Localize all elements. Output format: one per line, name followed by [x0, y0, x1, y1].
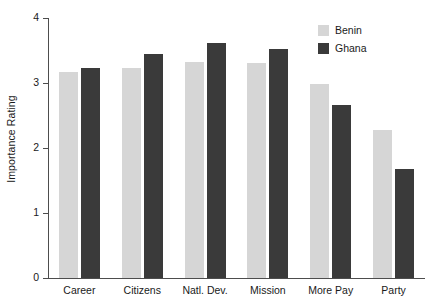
bar-benin-3 [247, 63, 266, 278]
bar-benin-5 [373, 130, 392, 278]
x-axis-label: Mission [237, 284, 300, 297]
plot-area: 01234 CareerCitizensNatl. Dev.MissionMor… [48, 18, 425, 278]
bar-benin-2 [185, 62, 204, 278]
x-axis-label: Natl. Dev. [174, 284, 237, 297]
y-axis-tick: 3 [43, 83, 48, 84]
legend-label: Benin [335, 24, 362, 37]
bar-ghana-4 [332, 105, 351, 278]
y-axis-title: Importance Rating [0, 0, 22, 278]
y-axis-line [48, 18, 49, 278]
x-axis-line [48, 278, 425, 279]
y-axis-tick-label: 2 [33, 141, 39, 154]
x-axis-label: Party [362, 284, 425, 297]
y-axis-tick: 0 [43, 278, 48, 279]
legend-swatch-icon [318, 43, 329, 54]
x-axis-label: More Pay [299, 284, 362, 297]
legend-label: Ghana [335, 42, 367, 55]
legend-swatch-icon [318, 25, 329, 36]
bar-ghana-5 [395, 169, 414, 278]
y-axis-tick: 2 [43, 148, 48, 149]
x-axis-label: Citizens [111, 284, 174, 297]
bar-benin-4 [310, 84, 329, 278]
legend-item-ghana: Ghana [318, 41, 367, 56]
legend-item-benin: Benin [318, 23, 367, 38]
x-axis-label: Career [48, 284, 111, 297]
bar-ghana-1 [144, 54, 163, 278]
bar-ghana-0 [81, 68, 100, 278]
bar-benin-1 [122, 68, 141, 278]
bar-chart: Importance Rating 01234 CareerCitizensNa… [0, 0, 429, 305]
y-axis-tick: 4 [43, 18, 48, 19]
y-axis-tick-label: 0 [33, 271, 39, 284]
legend: BeninGhana [318, 23, 367, 59]
y-axis-tick-label: 4 [33, 11, 39, 24]
bar-ghana-2 [207, 43, 226, 278]
y-axis-title-text: Importance Rating [5, 95, 17, 183]
y-axis-tick-label: 1 [33, 206, 39, 219]
bar-ghana-3 [269, 49, 288, 278]
y-axis-tick-label: 3 [33, 76, 39, 89]
y-axis-tick: 1 [43, 213, 48, 214]
bar-benin-0 [59, 72, 78, 278]
